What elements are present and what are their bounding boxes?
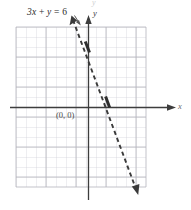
x-axis-arrowhead (167, 104, 176, 110)
equation-constant: 6 (62, 7, 67, 17)
equation-plus: + (39, 7, 45, 17)
y-axis-arrowhead (85, 15, 91, 24)
graph-figure: y 3x + y = 6 y x (0, 0) (0, 0, 191, 210)
equation-y-term: y (47, 7, 51, 17)
top-crop-artifact: y (92, 0, 96, 7)
equation-coefficient-term: 3x (27, 7, 36, 17)
origin-point-label: (0, 0) (56, 110, 74, 120)
equation-label: 3x + y = 6 (27, 7, 67, 17)
x-axis-label: x (178, 101, 182, 111)
equation-equals: = (54, 7, 60, 17)
y-axis-label: y (93, 8, 97, 18)
coordinate-plane-svg (0, 0, 191, 210)
